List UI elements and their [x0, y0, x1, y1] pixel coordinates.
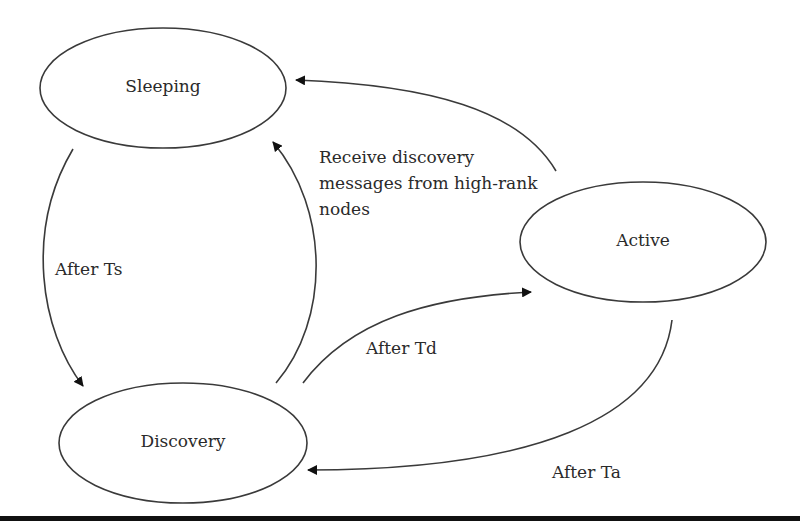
discovery-label: Discovery — [141, 431, 226, 451]
sleeping-label: Sleeping — [125, 76, 200, 96]
arrow-icon — [273, 142, 316, 383]
state-discovery: Discovery — [59, 383, 307, 503]
state-active: Active — [520, 182, 766, 302]
bottom-rule — [0, 516, 800, 521]
edge-label-receive-line3: nodes — [319, 199, 370, 219]
state-diagram: Sleeping Active Discovery After Ts Recei… — [0, 0, 800, 525]
edge-discovery-to-active: After Td — [303, 292, 531, 383]
edge-label-receive-line1: Receive discovery — [319, 147, 475, 167]
edge-label-after-td: After Td — [365, 338, 437, 358]
edge-active-to-discovery: After Ta — [308, 320, 672, 482]
state-sleeping: Sleeping — [40, 28, 286, 148]
edge-sleeping-to-discovery: After Ts — [43, 149, 122, 386]
edge-label-after-ta: After Ta — [551, 462, 621, 482]
edge-label-after-ts: After Ts — [54, 259, 123, 279]
edge-label-receive-line2: messages from high-rank — [319, 173, 538, 193]
arrow-icon — [308, 320, 672, 470]
active-label: Active — [615, 230, 670, 250]
